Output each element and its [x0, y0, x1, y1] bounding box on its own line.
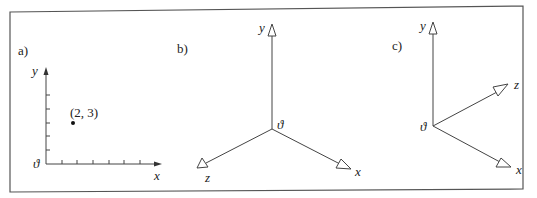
arrow-up-right-icon [493, 84, 508, 96]
arrow-up-icon [44, 67, 49, 75]
panel-b-x-axis [272, 129, 340, 164]
panel-a-y-label: y [30, 63, 38, 78]
panel-b: b) y x z ϑ [177, 20, 361, 185]
panel-b-y-label: y [257, 20, 265, 35]
coordinate-systems-figure: a) y x ϑ (2, 3) b) [0, 0, 537, 198]
panel-b-x-label: x [354, 164, 361, 179]
panel-c-origin-label: ϑ [420, 119, 427, 134]
panel-a-y-ticks [46, 95, 50, 150]
panel-c-x-axis [433, 126, 500, 162]
panel-a-x-label: x [153, 168, 160, 183]
panel-b-label: b) [177, 41, 188, 56]
panel-a-x-ticks [62, 160, 140, 164]
panel-a-point-label: (2, 3) [70, 105, 98, 120]
panel-b-z-axis [206, 129, 272, 163]
panel-a-label: a) [18, 43, 28, 58]
arrow-down-right-icon [496, 158, 511, 167]
panel-a-origin-label: ϑ [33, 156, 40, 171]
panel-a: a) y x ϑ (2, 3) [18, 43, 162, 183]
arrow-down-right-icon [336, 159, 351, 169]
panel-c-label: c) [392, 38, 402, 53]
panel-c: c) y z x ϑ [392, 18, 522, 177]
panel-b-origin-label: ϑ [277, 117, 284, 132]
panel-a-point [71, 121, 75, 125]
panel-c-z-label: z [513, 77, 519, 92]
panel-c-x-label: x [515, 162, 522, 177]
panel-c-y-label: y [418, 18, 426, 33]
arrow-up-icon [268, 24, 276, 36]
arrow-up-icon [429, 22, 437, 34]
panel-c-z-axis [433, 92, 497, 126]
panel-b-z-label: z [204, 170, 210, 185]
arrow-right-icon [154, 162, 162, 167]
